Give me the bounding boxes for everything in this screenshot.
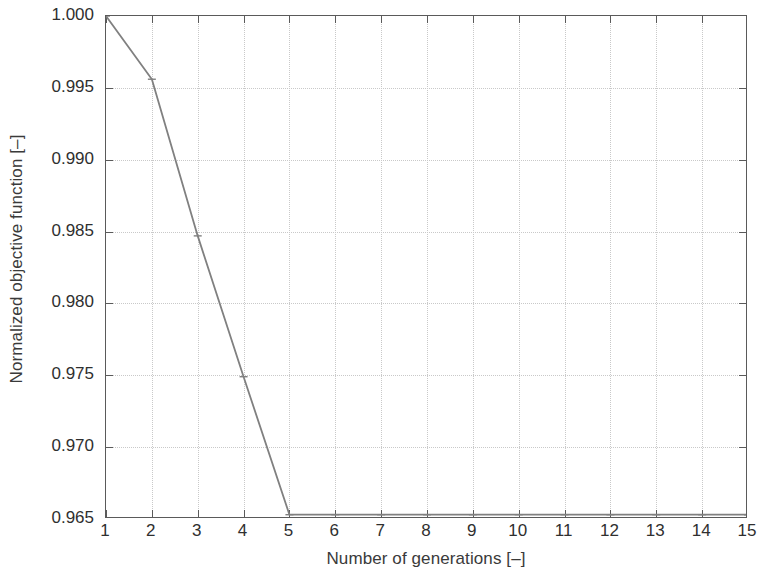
x-tick-label: 1 [100,521,109,541]
x-tick-label: 3 [192,521,201,541]
x-tick-label: 9 [467,521,476,541]
x-tick-label: 13 [646,521,665,541]
x-tick-label: 4 [238,521,247,541]
x-tick-label: 10 [508,521,527,541]
x-tick-label-group: 123456789101112131415 [0,0,765,584]
x-tick-label: 14 [692,521,711,541]
x-tick-label: 2 [146,521,155,541]
x-tick-label: 6 [330,521,339,541]
x-tick-label: 11 [555,521,573,541]
x-tick-label: 8 [421,521,430,541]
x-axis-label: Number of generations [–] [105,549,747,569]
x-tick-label: 5 [284,521,293,541]
x-tick-label: 7 [375,521,384,541]
x-tick-label: 12 [600,521,619,541]
x-tick-label: 15 [738,521,757,541]
chart-figure: Normalized objective function [–] 0.9650… [0,0,765,584]
